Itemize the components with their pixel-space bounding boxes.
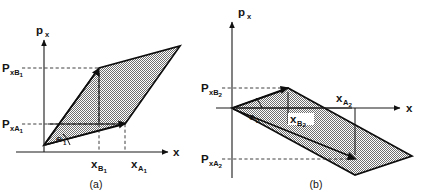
- parallelogram-a: [44, 46, 180, 145]
- tick-pxa2-main-b: P: [201, 153, 209, 165]
- panel-b: p x x P xB 2 P xA 2 x B 2 x A 2: [201, 6, 413, 190]
- tick-pxb2-sub2-b: 2: [219, 91, 223, 98]
- tick-xa1-sub2-a: 1: [144, 167, 148, 174]
- y-axis-label-b: p x: [238, 6, 252, 21]
- tick-label-pxa1-a: P xA 1: [2, 118, 24, 134]
- tick-pxa1-sub2-a: 1: [20, 127, 24, 134]
- tick-xb1-sub2-a: 1: [104, 167, 108, 174]
- figure-canvas: p x x P xB 1 P xA 1 x B 1 x A 1: [0, 0, 432, 194]
- tick-label-xa1-a: x A 1: [131, 158, 148, 174]
- tick-label-pxb2-b: P xB 2: [201, 82, 223, 98]
- tick-xb2-main-b: x: [290, 113, 297, 125]
- tick-pxa2-sub2-b: 2: [219, 162, 223, 169]
- y-axis-label-sub-a: x: [45, 30, 50, 39]
- tick-pxb1-sub2-a: 1: [20, 71, 24, 78]
- panel-a: p x x P xB 1 P xA 1 x B 1 x A 1: [2, 24, 180, 190]
- tick-label-xb1-a: x B 1: [91, 158, 108, 174]
- y-axis-label-main-b: p: [238, 6, 245, 18]
- y-axis-label-sub-b: x: [247, 12, 252, 21]
- tick-xb2-sub2-b: 2: [303, 121, 307, 128]
- x-axis-label-b: x: [406, 102, 413, 114]
- tick-xb1-main-a: x: [91, 158, 98, 170]
- tick-pxb2-main-b: P: [201, 82, 209, 94]
- phase-space-figure: p x x P xB 1 P xA 1 x B 1 x A 1: [0, 0, 432, 194]
- x-axis-label-a: x: [173, 146, 180, 158]
- tick-label-pxb1-a: P xB 1: [2, 62, 24, 78]
- panel-caption-b: (b): [310, 178, 323, 190]
- angle-theta1-main-a: Θ: [56, 135, 62, 144]
- angle-theta2-sub-b: 2: [256, 117, 260, 124]
- angle-theta1-sub-a: 1: [63, 139, 67, 146]
- tick-xa1-main-a: x: [131, 158, 138, 170]
- panel-caption-a: (a): [90, 178, 103, 190]
- tick-label-xa2-b: x A 2: [336, 92, 353, 108]
- y-axis-label-main-a: p: [36, 24, 43, 36]
- tick-pxb1-main-a: P: [2, 62, 10, 74]
- tick-xa2-main-b: x: [336, 92, 343, 104]
- tick-label-pxa2-b: P xA 2: [201, 153, 223, 169]
- tick-xa2-sub2-b: 2: [349, 101, 353, 108]
- angle-theta2-main-b: Θ: [249, 113, 255, 122]
- tick-pxa1-main-a: P: [2, 118, 10, 130]
- y-axis-label-a: p x: [36, 24, 50, 39]
